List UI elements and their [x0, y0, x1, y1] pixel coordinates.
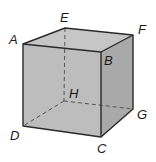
- vertex-label-c: C: [97, 141, 107, 156]
- front-face: [23, 44, 101, 137]
- vertex-label-h: H: [69, 86, 79, 101]
- right-face: [101, 35, 133, 137]
- vertex-label-d: D: [10, 128, 19, 143]
- vertex-label-b: B: [104, 53, 113, 68]
- vertex-label-f: F: [138, 22, 147, 37]
- vertex-label-g: G: [137, 107, 147, 122]
- vertex-label-e: E: [60, 10, 69, 25]
- cube-diagram: A E F B H G D C: [0, 0, 156, 162]
- vertex-label-a: A: [8, 32, 18, 47]
